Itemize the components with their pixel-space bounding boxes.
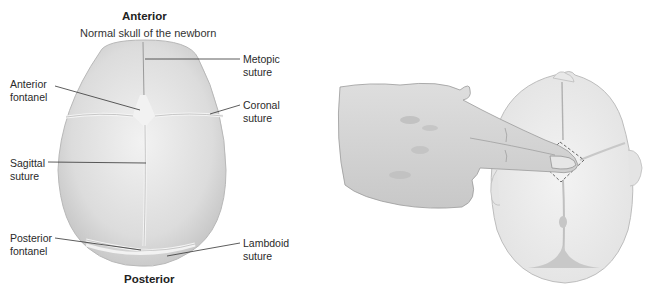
label-sagittal-suture: Sagittal suture [10, 157, 45, 183]
label-anterior-fontanel: Anterior fontanel [10, 78, 47, 104]
label-lambdoid-suture: Lambdoid suture [243, 237, 289, 263]
diagram-canvas [0, 0, 656, 297]
figure-subtitle: Normal skull of the newborn [80, 27, 216, 39]
posterior-heading: Posterior [124, 273, 175, 285]
infant-skull-palpation [491, 72, 642, 284]
newborn-skull-top-view [58, 40, 226, 266]
anterior-heading: Anterior [122, 10, 167, 22]
label-coronal-suture: Coronal suture [243, 99, 280, 125]
label-posterior-fontanel: Posterior fontanel [10, 232, 52, 258]
label-metopic-suture: Metopic suture [243, 53, 280, 79]
